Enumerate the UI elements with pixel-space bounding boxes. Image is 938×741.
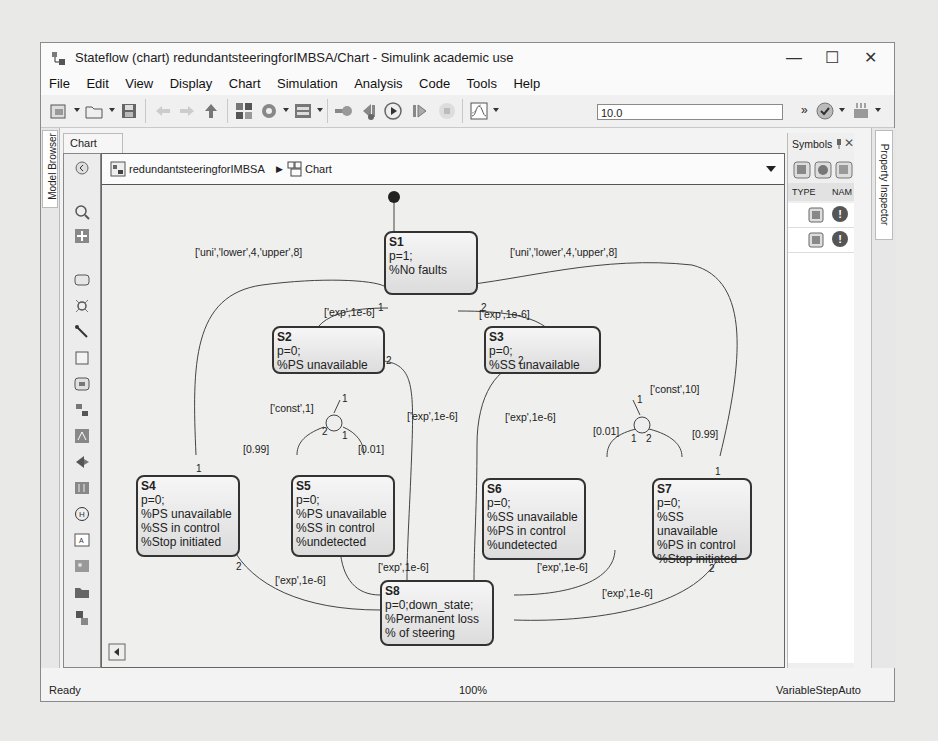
model-browser-tab[interactable]: Model Browser: [42, 130, 58, 208]
up-icon[interactable]: [201, 101, 221, 121]
annotation-icon[interactable]: A: [74, 532, 90, 548]
transition-label-s2-junction[interactable]: ['const',1]: [270, 402, 314, 414]
subchart-icon[interactable]: [74, 584, 90, 600]
new-dropdown-icon[interactable]: [74, 108, 80, 112]
menu-simulation[interactable]: Simulation: [277, 73, 338, 91]
transition-label-junction-s5[interactable]: [0.01]: [358, 443, 384, 455]
config-dropdown-icon[interactable]: [283, 108, 289, 112]
symbols-table-header: TYPE NAM: [788, 183, 854, 201]
build-icon[interactable]: [851, 101, 871, 121]
pin-icon[interactable]: [835, 139, 843, 149]
debug-icon[interactable]: [333, 101, 353, 121]
transition-label-s7-s8[interactable]: ['exp',1e-6]: [602, 587, 653, 599]
property-inspector-tab[interactable]: Property Inspector: [875, 130, 893, 240]
add-data-icon[interactable]: [793, 161, 811, 179]
menu-file[interactable]: File: [49, 73, 70, 91]
matlab-function-icon[interactable]: [74, 428, 90, 444]
minimize-button[interactable]: —: [779, 47, 809, 69]
transition-label-s6-s8[interactable]: ['exp',1e-6]: [537, 561, 588, 573]
data-icon: [808, 232, 824, 248]
forward-icon[interactable]: [177, 101, 197, 121]
transition-label-junction-s7[interactable]: [0.99]: [692, 428, 718, 440]
symbols-row[interactable]: !: [788, 203, 854, 228]
run-icon[interactable]: [383, 101, 403, 121]
step-forward-icon[interactable]: [409, 101, 429, 121]
stop-icon[interactable]: [437, 101, 457, 121]
transition-label-s4-s8[interactable]: ['exp',1e-6]: [275, 574, 326, 586]
box-icon[interactable]: [74, 350, 90, 366]
build-dropdown-icon[interactable]: [875, 108, 881, 112]
close-symbols-icon[interactable]: ✕: [844, 136, 854, 150]
menu-code[interactable]: Code: [419, 73, 450, 91]
toolbar-overflow-button[interactable]: »: [801, 103, 808, 117]
execution-order: 2: [236, 561, 242, 572]
menu-view[interactable]: View: [125, 73, 153, 91]
menu-edit[interactable]: Edit: [86, 73, 108, 91]
menu-tools[interactable]: Tools: [467, 73, 497, 91]
explorer-dropdown-icon[interactable]: [317, 108, 323, 112]
open-dropdown-icon[interactable]: [109, 108, 115, 112]
execution-order: 2: [322, 426, 328, 437]
state-s3[interactable]: S3 p=0; %SS unavailable: [484, 326, 601, 374]
state-s6[interactable]: S6 p=0; %SS unavailable %PS in control %…: [482, 478, 586, 560]
scope-icon[interactable]: [469, 101, 489, 121]
transition-label-s2-s8[interactable]: ['exp',1e-6]: [407, 410, 458, 422]
transition-label-junction-s6[interactable]: [0.01]: [593, 425, 619, 437]
transition-label-junction-s4[interactable]: [0.99]: [243, 443, 269, 455]
breadcrumb-chart[interactable]: Chart: [305, 163, 332, 175]
advisor-dropdown-icon[interactable]: [839, 108, 845, 112]
hide-browser-icon[interactable]: [74, 160, 90, 176]
fit-icon[interactable]: [74, 228, 90, 244]
transition-label-s4-s1[interactable]: ['uni','lower',4,'upper',8]: [195, 246, 302, 258]
transition-label-s3-s8[interactable]: ['exp',1e-6]: [505, 411, 556, 423]
breadcrumb-dropdown-icon[interactable]: [766, 166, 776, 172]
transition-label-s5-s8[interactable]: ['exp',1e-6]: [378, 561, 429, 573]
transition-label-s7-s1[interactable]: ['uni','lower',4,'upper',8]: [510, 246, 617, 258]
menu-display[interactable]: Display: [170, 73, 213, 91]
breadcrumb-model[interactable]: redundantsteeringforIMBSA: [129, 163, 265, 175]
state-s4[interactable]: S4 p=0; %PS unavailable %SS in control %…: [136, 475, 240, 557]
model-config-icon[interactable]: [259, 101, 279, 121]
simulink-function-icon[interactable]: [74, 376, 90, 392]
image-icon[interactable]: [74, 558, 90, 574]
back-icon[interactable]: [153, 101, 173, 121]
maximize-button[interactable]: ☐: [817, 47, 847, 69]
menu-help[interactable]: Help: [513, 73, 540, 91]
add-message-icon[interactable]: [835, 161, 853, 179]
state-icon[interactable]: [74, 272, 90, 288]
state-s2[interactable]: S2 p=0; %PS unavailable: [272, 326, 385, 374]
menu-chart[interactable]: Chart: [229, 73, 261, 91]
subsystem-icon[interactable]: [74, 610, 90, 626]
close-button[interactable]: ✕: [855, 47, 885, 69]
model-advisor-icon[interactable]: [815, 101, 835, 121]
zoom-icon[interactable]: [74, 204, 90, 220]
junction-icon[interactable]: [74, 298, 90, 314]
transition-label-s3-junction[interactable]: ['const',10]: [650, 383, 700, 395]
history-junction-icon[interactable]: [74, 454, 90, 470]
state-s5[interactable]: S5 p=0; %PS unavailable %SS in control %…: [291, 475, 395, 557]
execution-order: 2: [646, 433, 652, 444]
scope-dropdown-icon[interactable]: [493, 108, 499, 112]
library-browser-icon[interactable]: [234, 101, 254, 121]
state-s1[interactable]: S1 p=1; %No faults: [384, 231, 478, 295]
stop-time-input[interactable]: 10.0: [597, 104, 783, 120]
default-transition-icon[interactable]: [74, 324, 90, 340]
state-s8[interactable]: S8 p=0;down_state; %Permanent loss % of …: [380, 580, 494, 646]
save-icon[interactable]: [119, 101, 139, 121]
transition-label-s1-s2[interactable]: ['exp',1e-6]: [324, 306, 375, 318]
history-icon[interactable]: H: [74, 506, 90, 522]
stateflow-canvas[interactable]: S1 p=1; %No faults S2 p=0; %PS unavailab…: [102, 185, 784, 667]
truth-table-icon[interactable]: [74, 480, 90, 496]
chart-tab[interactable]: Chart: [63, 133, 123, 153]
symbols-row[interactable]: !: [788, 228, 854, 253]
right-dock-strip: Property Inspector: [871, 128, 896, 668]
menu-analysis[interactable]: Analysis: [354, 73, 402, 91]
add-event-icon[interactable]: [814, 161, 832, 179]
graphical-function-icon[interactable]: [74, 402, 90, 418]
new-model-icon[interactable]: [49, 101, 69, 121]
state-s7[interactable]: S7 p=0; %SS unavailable %PS in control %…: [652, 478, 752, 560]
open-icon[interactable]: [84, 101, 104, 121]
step-back-icon[interactable]: [359, 101, 379, 121]
model-explorer-icon[interactable]: [293, 101, 313, 121]
collapse-icon[interactable]: [108, 643, 126, 661]
